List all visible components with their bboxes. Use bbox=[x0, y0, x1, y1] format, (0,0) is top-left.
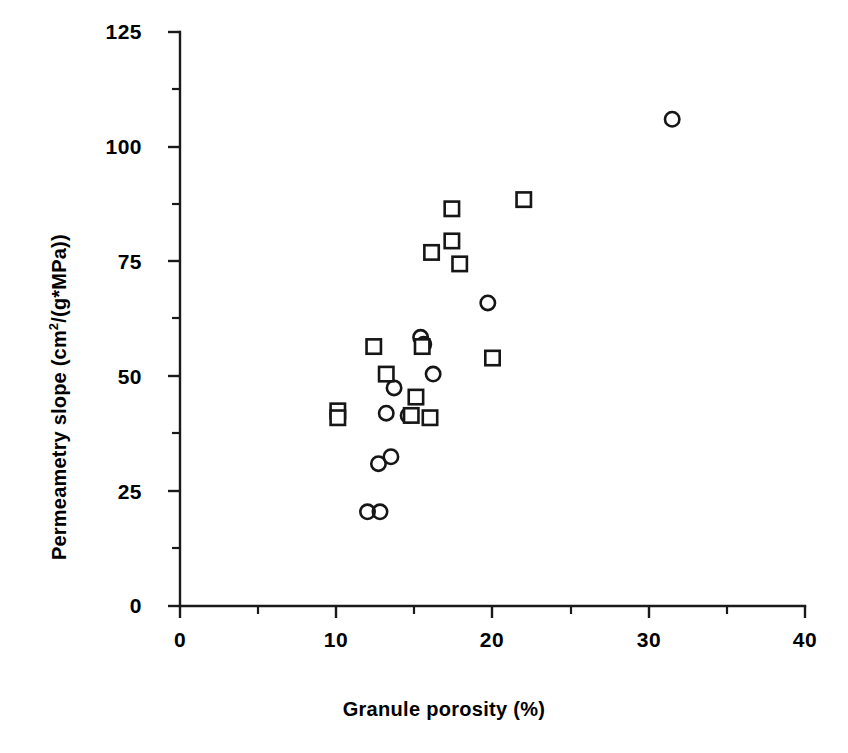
data-point-square bbox=[445, 202, 459, 216]
data-point-square bbox=[452, 257, 466, 271]
data-point-square bbox=[404, 408, 418, 422]
data-point-square bbox=[415, 339, 429, 353]
x-axis-major-ticks bbox=[180, 606, 805, 618]
data-point-square bbox=[485, 351, 499, 365]
plot-canvas bbox=[0, 0, 848, 753]
data-point-square bbox=[445, 234, 459, 248]
data-point-square bbox=[367, 339, 381, 353]
data-point-square bbox=[517, 192, 531, 206]
plot-background bbox=[180, 32, 805, 606]
data-point-square bbox=[424, 245, 438, 259]
data-point-square bbox=[379, 367, 393, 381]
data-point-square bbox=[423, 411, 437, 425]
data-point-square bbox=[409, 390, 423, 404]
data-point-square bbox=[331, 411, 345, 425]
scatter-chart-figure: Permeametry slope (cm2/(g*MPa)) Granule … bbox=[0, 0, 848, 753]
